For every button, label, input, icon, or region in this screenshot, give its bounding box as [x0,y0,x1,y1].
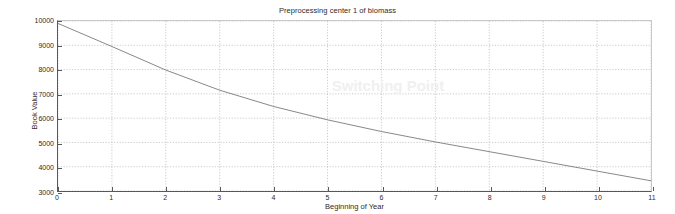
y-tick-mark [58,70,62,71]
y-tick-mark [58,46,62,47]
x-tick-label: 6 [380,194,384,201]
x-tick-mark [599,187,600,191]
y-tick-label: 3000 [38,189,54,196]
x-tick-mark [58,187,59,191]
y-tick-label: 8000 [38,66,54,73]
x-axis-label: Beginning of Year [57,202,652,211]
x-tick-label: 10 [594,194,602,201]
x-tick-mark [274,187,275,191]
x-tick-mark [328,187,329,191]
x-tick-mark [220,187,221,191]
x-tick-mark [491,187,492,191]
y-tick-mark [58,119,62,120]
y-tick-mark [58,168,62,169]
y-tick-label: 4000 [38,164,54,171]
x-tick-mark [545,187,546,191]
y-tick-mark [58,95,62,96]
x-tick-label: 9 [542,194,546,201]
x-tick-mark [653,187,654,191]
chart-title: Preprocessing center 1 of biomass [0,6,675,15]
y-tick-label: 7000 [38,90,54,97]
y-tick-mark [58,21,62,22]
x-tick-label: 5 [326,194,330,201]
x-tick-mark [166,187,167,191]
x-tick-mark [437,187,438,191]
y-axis-tick-labels: 300040005000600070008000900010000 [14,20,54,192]
switching-point-watermark: Switching Point [288,77,488,94]
x-tick-mark [383,187,384,191]
x-tick-label: 11 [648,194,655,201]
x-tick-label: 3 [217,194,221,201]
y-tick-label: 6000 [38,115,54,122]
plot-area: Switching Point [57,20,652,192]
y-tick-label: 9000 [38,41,54,48]
x-tick-label: 4 [271,194,275,201]
x-tick-label: 0 [55,194,59,201]
x-tick-label: 1 [109,194,113,201]
x-tick-label: 7 [434,194,438,201]
x-tick-mark [112,187,113,191]
x-tick-label: 2 [163,194,167,201]
x-tick-label: 8 [488,194,492,201]
y-tick-label: 10000 [35,17,54,24]
y-tick-label: 5000 [38,139,54,146]
chart-figure: Preprocessing center 1 of biomass Book V… [0,0,675,214]
watermark-layer: Switching Point [58,21,651,191]
y-tick-mark [58,144,62,145]
